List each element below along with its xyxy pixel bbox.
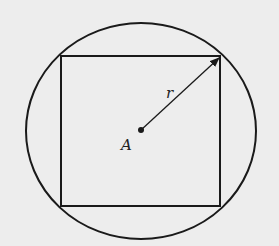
inscribed-square-diagram: r A (0, 0, 279, 246)
radius-label: r (166, 84, 174, 102)
center-label: A (119, 136, 132, 154)
diagram-canvas: r A (0, 0, 279, 246)
radius-arrow (141, 58, 219, 130)
center-point (138, 127, 144, 133)
